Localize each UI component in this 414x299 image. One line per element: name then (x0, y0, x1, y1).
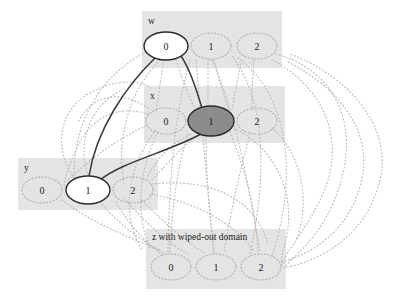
value-label-z-0: 0 (169, 262, 174, 273)
value-label-x-2: 2 (255, 116, 260, 127)
variable-label-x: x (150, 91, 155, 101)
value-label-w-1: 1 (209, 41, 214, 52)
value-label-y-2: 2 (131, 185, 136, 196)
variable-label-y: y (24, 163, 29, 173)
constraint-graph-diagram: 012012012012wxyz with wiped-out domain (0, 0, 414, 299)
value-label-z-2: 2 (259, 262, 264, 273)
dotted-constraint-edge (78, 97, 148, 122)
graph-canvas: 012012012012wxyz with wiped-out domain (0, 0, 414, 299)
variable-label-z: z with wiped-out domain (152, 232, 247, 242)
dotted-constraint-edge (232, 56, 261, 254)
value-label-y-1: 1 (86, 185, 91, 196)
value-label-w-2: 2 (255, 41, 260, 52)
value-label-x-0: 0 (164, 116, 169, 127)
value-label-w-0: 0 (164, 41, 169, 52)
dotted-constraint-edge (152, 138, 194, 180)
value-label-z-1: 1 (214, 262, 219, 273)
dotted-constraint-edge (272, 128, 303, 240)
value-label-y-0: 0 (40, 185, 45, 196)
value-label-x-1: 1 (209, 116, 214, 127)
variable-label-w: w (148, 16, 155, 26)
